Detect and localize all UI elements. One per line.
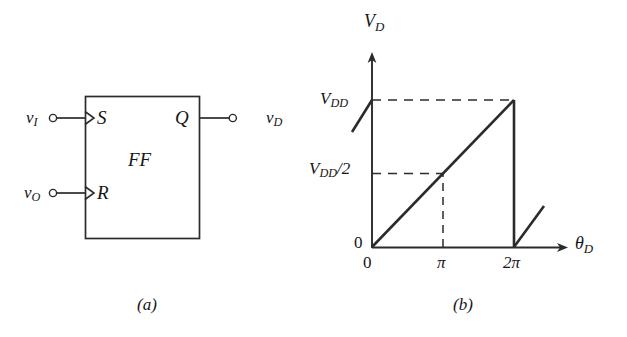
sawtooth-ramp-previous [352,100,372,132]
y-axis-label: VD [364,12,384,34]
y-tick-label-vdd: VDD [320,90,348,110]
x-tick-label-zero: 0 [363,254,372,271]
input-terminal-vo [49,189,56,196]
label-input-vo: vO [24,184,40,204]
output-terminal-vd [229,114,236,121]
x-axis-label: θD [575,234,593,256]
label-input-vi: vI [26,109,38,129]
panel-b-group [352,52,568,252]
label-output-vd: vD [266,109,282,129]
pin-label-r: R [97,183,109,202]
pin-label-s: S [97,108,107,127]
figure-canvas: vI vO vD S R Q FF (a) VD VDD VDD/2 0 0 π… [0,0,627,337]
y-tick-label-zero: 0 [354,234,363,251]
block-label-ff: FF [128,150,151,169]
input-terminal-vi [49,114,56,121]
x-tick-label-pi: π [437,254,446,271]
sawtooth-ramp-next [514,206,544,247]
caption-panel-b: (b) [453,296,473,313]
x-tick-label-2pi: 2π [503,254,520,271]
pin-label-q: Q [175,108,189,127]
y-tick-label-vdd-half: VDD/2 [309,160,350,180]
caption-panel-a: (a) [137,296,157,313]
